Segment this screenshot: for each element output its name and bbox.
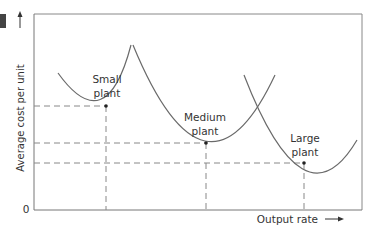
medium-plant-label: Medium xyxy=(184,111,226,123)
large-plant-label-2: plant xyxy=(292,146,319,158)
medium-plant-min-point xyxy=(204,141,208,145)
plant-size-cost-chart: Small plant Medium plant Large plant 0 O… xyxy=(0,0,378,234)
large-plant-min-point xyxy=(302,161,306,165)
y-zero-tick: 0 xyxy=(23,203,30,215)
large-plant-label: Large xyxy=(290,132,320,144)
small-plant-label-2: plant xyxy=(94,87,121,99)
x-axis-arrow-icon xyxy=(325,217,344,222)
small-plant-label: Small xyxy=(92,73,121,85)
small-plant-min-point xyxy=(104,104,108,108)
x-axis-label: Output rate xyxy=(257,213,318,225)
large-plant-curve xyxy=(244,75,357,173)
y-axis-arrow-icon xyxy=(18,11,23,28)
medium-plant-label-2: plant xyxy=(192,125,219,137)
corner-marker xyxy=(0,14,6,28)
y-axis-label: Average cost per unit xyxy=(15,64,26,171)
guide-lines xyxy=(34,106,304,210)
